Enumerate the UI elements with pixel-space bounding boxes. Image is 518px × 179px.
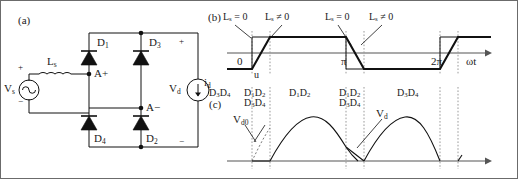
plot-c-vd-hump-2 <box>364 117 440 161</box>
plot-b-xtick-2pi: 2π <box>431 56 442 67</box>
plot-b-x-axis-arrowhead <box>485 50 492 57</box>
plot-b-group <box>227 25 492 75</box>
plot-c-label-vd: Vd <box>376 108 388 120</box>
diode-d3-triangle <box>133 51 149 65</box>
node-label-a-plus: A+ <box>94 68 108 79</box>
inductor-label-ls: Ls <box>47 56 57 68</box>
plot-c-conduction-label-1: D3D4 <box>209 88 230 99</box>
inductor-coil <box>39 72 71 74</box>
wire-source-return <box>29 99 89 113</box>
plot-c-label-vd0: Vd0 <box>233 114 248 126</box>
source-label-vs: Vs <box>4 83 15 95</box>
plot-c-x-axis-arrowhead <box>485 158 492 165</box>
plot-b-overlap-label-u: u <box>254 70 259 80</box>
plot-b-annotation-ls-zero-2: Ls = 0 <box>325 12 349 23</box>
junction-dot-bottom <box>139 145 144 150</box>
diode-d3 <box>133 51 149 65</box>
plot-b-annotation-ls-zero-1: Ls = 0 <box>223 12 247 23</box>
diode-d2-triangle <box>133 116 149 130</box>
junction-dot-a-minus <box>139 106 144 111</box>
plot-b-axis-label-omega-t: ωt <box>466 56 476 67</box>
plot-c-conduction-label-5: D3D4 <box>397 88 418 99</box>
plot-c-conduction-label-4-line2: D3D4 <box>339 98 360 109</box>
plot-c-conduction-label-3: D1D2 <box>289 88 310 99</box>
plot-b-leader-lines <box>235 25 382 45</box>
diode-label-d1: D1 <box>97 37 109 49</box>
current-source-arrow-head <box>195 93 201 97</box>
source-polarity-plus: + <box>18 63 23 72</box>
junction-dot-a-plus <box>87 72 92 77</box>
plot-c-vd-hump-1 <box>252 117 358 161</box>
plot-c-leader-lines <box>245 119 382 148</box>
plot-b-xtick-pi: π <box>341 56 347 67</box>
ac-source-sine-glyph <box>23 87 36 94</box>
plot-c-conduction-label-2-line2: D3D4 <box>244 98 265 109</box>
diode-d1 <box>81 51 97 65</box>
diode-d2 <box>133 116 149 130</box>
diode-d4-triangle <box>81 116 97 130</box>
plot-c-vd-hump-3-start <box>458 155 462 161</box>
diode-d4 <box>81 116 97 130</box>
diode-d1-triangle <box>81 51 97 65</box>
junction-dot-top <box>139 31 144 36</box>
figure-rectifier-with-source-inductance: (a) (b) (c) <box>0 0 518 179</box>
plot-c-ideal-vd0-curve <box>252 128 270 161</box>
plot-b-xtick-0: 0 <box>237 56 243 67</box>
node-label-a-minus: A− <box>146 102 160 113</box>
dc-polarity-plus: + <box>179 37 184 46</box>
plot-b-annotation-ls-nonzero-1: Ls ≠ 0 <box>265 12 289 23</box>
dc-polarity-minus: − <box>179 137 184 146</box>
diode-label-d2: D2 <box>146 133 158 145</box>
plot-c-vd-notch-1 <box>346 147 364 161</box>
source-polarity-minus: − <box>18 97 23 106</box>
diode-label-d3: D3 <box>149 37 161 49</box>
diode-label-d4: D4 <box>94 133 106 145</box>
dc-voltage-label-vd: Vd <box>169 83 181 95</box>
plot-b-annotation-ls-nonzero-2: Ls ≠ 0 <box>369 12 393 23</box>
